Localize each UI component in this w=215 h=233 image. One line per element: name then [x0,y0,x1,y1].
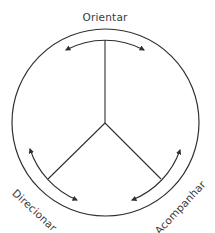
divider-right [105,123,161,179]
sector-dividers [48,40,161,179]
label-direcionar: Direcionar [10,187,60,233]
divider-left [48,123,105,179]
label-orientar: Orientar [82,11,128,23]
arrow-left-bidirectional-icon [30,149,77,200]
label-acompanhar: Acompanhar [152,178,208,233]
cycle-diagram: Orientar Direcionar Acompanhar [0,0,215,233]
